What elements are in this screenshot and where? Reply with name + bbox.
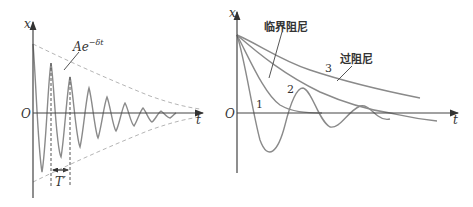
critical-leader	[269, 32, 282, 78]
curve-label-2: 2	[287, 83, 294, 96]
y-axis-label: x	[24, 17, 31, 31]
origin-label: O	[21, 107, 31, 121]
origin-label-right: O	[225, 107, 235, 121]
upper-envelope	[33, 44, 200, 109]
envelope-leader	[64, 52, 79, 70]
x-axis-label-right: t	[453, 113, 458, 127]
damping-comparison-plot: 临界阻尼 过阻尼 1 2 3 x t O	[225, 6, 458, 173]
x-axis-label: t	[196, 113, 201, 127]
curve-label-1: 1	[256, 98, 263, 111]
period-label: T′	[55, 175, 66, 189]
y-axis-label-right: x	[229, 6, 236, 20]
damped-vibration-diagram: T′ Ae−δt x t O 临界阻尼 过阻尼 1 2 3 x t O	[0, 0, 473, 207]
lower-envelope	[33, 117, 200, 182]
envelope-label: Ae−δt	[72, 38, 104, 54]
damped-oscillation-curve	[33, 44, 176, 172]
critical-damping-label: 临界阻尼	[264, 20, 308, 34]
underdamped-plot: T′ Ae−δt x t O	[21, 17, 203, 198]
overdamped-leader	[337, 66, 352, 81]
curve-label-3: 3	[325, 62, 332, 75]
over-damping-label: 过阻尼	[340, 52, 373, 66]
